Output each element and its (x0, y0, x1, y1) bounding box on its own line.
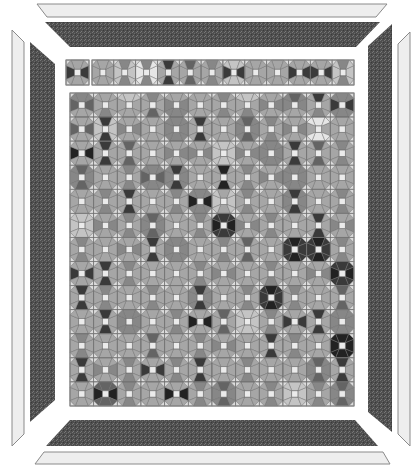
center-square (79, 174, 85, 180)
center-square (292, 367, 298, 373)
center-square (253, 69, 259, 76)
quilt-block (330, 334, 354, 358)
center-square (102, 343, 108, 349)
center-square (268, 343, 274, 349)
outer-light-border-right (398, 32, 410, 446)
center-square (126, 343, 132, 349)
quilt-block (259, 358, 283, 382)
center-square (173, 174, 179, 180)
quilt-block (330, 165, 354, 189)
center-square (292, 319, 298, 325)
top-strip-block (310, 60, 332, 85)
quilt-block (212, 334, 236, 358)
quilt-block (188, 262, 212, 286)
quilt-block (165, 286, 189, 310)
center-square (144, 69, 150, 76)
center-square (315, 126, 321, 132)
center-square (292, 102, 298, 108)
center-square (166, 69, 172, 76)
quilt-block (330, 189, 354, 213)
center-square (268, 295, 274, 301)
center-square (150, 198, 156, 204)
quilt-block (117, 189, 141, 213)
center-square (102, 222, 108, 228)
quilt-block (188, 237, 212, 261)
center-square (79, 295, 85, 301)
quilt-block (165, 382, 189, 406)
quilt-block (117, 286, 141, 310)
center-square (339, 270, 345, 276)
quilt-block (188, 93, 212, 117)
center-square (150, 222, 156, 228)
quilt-block (117, 382, 141, 406)
center-square (102, 319, 108, 325)
quilt-block (94, 382, 118, 406)
center-square (126, 174, 132, 180)
center-square (126, 150, 132, 156)
quilt-block (330, 358, 354, 382)
top-strip-block (201, 60, 223, 85)
center-square (126, 102, 132, 108)
quilt-block (212, 286, 236, 310)
center-square (297, 69, 303, 76)
quilt-block (283, 334, 307, 358)
quilt-block (117, 237, 141, 261)
quilt-block (283, 310, 307, 334)
quilt-block (236, 165, 260, 189)
center-square (197, 150, 203, 156)
center-square (339, 343, 345, 349)
center-square (244, 270, 250, 276)
top-strip-block (136, 60, 158, 85)
center-square (339, 319, 345, 325)
center-square (79, 150, 85, 156)
quilt-block (212, 189, 236, 213)
center-square (150, 319, 156, 325)
quilt-block (330, 286, 354, 310)
quilt-block (94, 189, 118, 213)
center-square (221, 246, 227, 252)
center-square (292, 222, 298, 228)
center-square (244, 367, 250, 373)
quilt-block (117, 310, 141, 334)
quilt-block (236, 93, 260, 117)
center-square (150, 343, 156, 349)
quilt-block (94, 117, 118, 141)
quilt-block (283, 93, 307, 117)
quilt-block (141, 262, 165, 286)
center-square (102, 126, 108, 132)
center-square (126, 270, 132, 276)
center-square (79, 222, 85, 228)
center-square (197, 222, 203, 228)
center-square (173, 367, 179, 373)
quilt-block (94, 237, 118, 261)
center-square (150, 391, 156, 397)
outer-light-border-left (12, 30, 24, 446)
quilt-block (330, 262, 354, 286)
quilt-block (141, 286, 165, 310)
center-square (268, 367, 274, 373)
top-strip-block (114, 60, 136, 85)
quilt-block (236, 382, 260, 406)
center-square (75, 69, 81, 76)
center-square (173, 150, 179, 156)
center-square (339, 198, 345, 204)
center-square (102, 246, 108, 252)
quilt-block (165, 310, 189, 334)
center-square (102, 391, 108, 397)
quilt-block (307, 358, 331, 382)
center-square (197, 367, 203, 373)
quilt-block (259, 165, 283, 189)
quilt-block (212, 93, 236, 117)
center-square (197, 246, 203, 252)
quilt-block (236, 237, 260, 261)
center-square (197, 319, 203, 325)
center-square (339, 367, 345, 373)
quilt-block (94, 165, 118, 189)
center-square (79, 126, 85, 132)
center-square (102, 198, 108, 204)
quilt-block (141, 141, 165, 165)
quilt-block (283, 262, 307, 286)
center-square (126, 391, 132, 397)
quilt-block (117, 334, 141, 358)
center-square (221, 102, 227, 108)
